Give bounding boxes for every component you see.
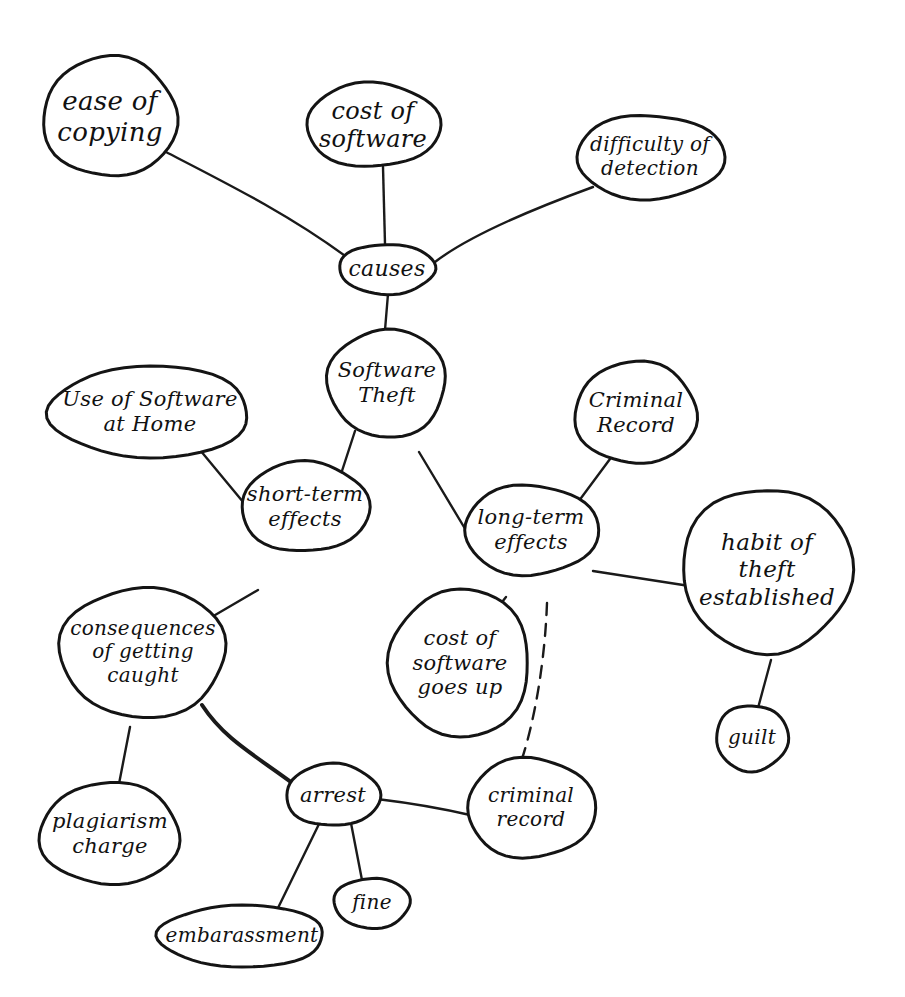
connector-software-theft-to-long-term-effects (419, 452, 470, 537)
concept-map-canvas: ease of copyingcost of softwaredifficult… (0, 0, 905, 997)
connector-consequences-of-getting-caught-to-plagiarism-charge (118, 727, 130, 789)
connector-cost-of-software-to-causes (383, 167, 385, 244)
node-label-short-term-effects[interactable]: short-term effects (241, 462, 369, 552)
node-label-consequences-of-getting-caught[interactable]: consequences of getting caught (60, 587, 226, 717)
connector-arrest-to-fine (350, 818, 362, 880)
node-label-fine[interactable]: fine (334, 878, 410, 928)
node-label-cost-of-software[interactable]: cost of software (306, 83, 440, 167)
connector-arrest-to-embarassment (276, 822, 320, 912)
node-label-cost-of-software-goes-up[interactable]: cost of software goes up (390, 589, 530, 737)
node-label-software-theft[interactable]: Software Theft (328, 329, 446, 437)
node-label-criminal-record-upper[interactable]: Criminal Record (575, 362, 697, 464)
node-label-guilt[interactable]: guilt (716, 705, 788, 771)
connector-difficulty-of-detection-to-causes (435, 187, 593, 262)
connector-long-term-effects-to-habit-of-theft-established (593, 571, 696, 587)
node-label-difficulty-of-detection[interactable]: difficulty of detection (576, 115, 724, 199)
node-label-habit-of-theft-established[interactable]: habit of theft established (682, 488, 852, 652)
connector-habit-of-theft-established-to-guilt (758, 660, 771, 708)
node-label-criminal-record-lower[interactable]: criminal record (467, 758, 595, 858)
connector-causes-to-software-theft (385, 294, 388, 330)
node-label-use-of-software-at-home[interactable]: Use of Software at Home (50, 366, 250, 458)
node-label-embarassment[interactable]: embarassment (159, 905, 325, 967)
node-label-causes[interactable]: causes (339, 244, 435, 294)
node-label-ease-of-copying[interactable]: ease of copying (43, 57, 177, 177)
node-label-arrest[interactable]: arrest (286, 764, 380, 826)
node-label-long-term-effects[interactable]: long-term effects (464, 485, 598, 575)
connector-lines (118, 152, 771, 912)
connector-arrest-to-criminal-record-lower (377, 799, 470, 815)
connector-consequences-of-getting-caught-to-arrest (202, 705, 295, 785)
node-label-plagiarism-charge[interactable]: plagiarism charge (40, 783, 180, 885)
connector-ease-of-copying-to-causes (166, 152, 348, 258)
